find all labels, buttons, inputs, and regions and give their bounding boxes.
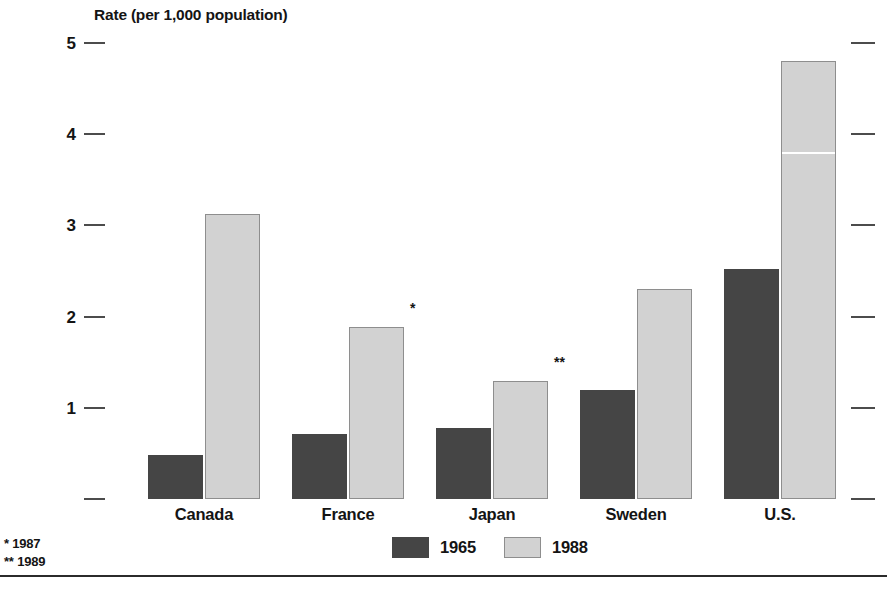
chart-legend: 19651988 (392, 537, 588, 558)
bar-chart-figure: Rate (per 1,000 population) 54321 *** Ca… (0, 0, 887, 590)
y-tick-label: 2 (54, 308, 76, 325)
bar-1988-france (349, 327, 404, 499)
y-tick-mark-left (84, 316, 105, 318)
bar-1965-japan (436, 428, 491, 499)
y-tick-label: 1 (54, 399, 76, 416)
category-label-france: France (322, 505, 375, 524)
legend-label-1965: 1965 (440, 539, 476, 556)
bar-annotation-france: * (410, 301, 415, 315)
chart-footnotes: * 1987** 1989 (4, 535, 45, 572)
bar-groups: *** (108, 43, 845, 499)
bar-group-us (724, 43, 836, 499)
y-tick-mark-left (84, 133, 105, 135)
y-tick-mark-right (851, 407, 875, 409)
bar-annotation-japan: ** (554, 355, 565, 369)
legend-item-1965: 1965 (392, 537, 476, 558)
x-axis-category-labels: CanadaFranceJapanSwedenU.S. (108, 503, 845, 531)
footnote-2: ** 1989 (4, 553, 45, 571)
bar-1988-japan (493, 381, 548, 499)
y-tick-mark-right (851, 42, 875, 44)
y-tick-mark-right (851, 133, 875, 135)
legend-swatch-1965 (392, 537, 429, 558)
bar-group-france: * (292, 43, 404, 499)
category-label-canada: Canada (175, 505, 233, 524)
y-tick-mark-left (84, 498, 105, 500)
y-tick-mark-left (84, 407, 105, 409)
y-axis-title: Rate (per 1,000 population) (94, 6, 288, 24)
bar-1965-sweden (580, 390, 635, 499)
y-tick-mark-right (851, 498, 875, 500)
bar-group-sweden (580, 43, 692, 499)
y-tick-mark-left (84, 42, 105, 44)
category-label-sweden: Sweden (605, 505, 666, 524)
y-tick-mark-right (851, 316, 875, 318)
legend-label-1988: 1988 (552, 539, 588, 556)
y-tick-label: 3 (54, 217, 76, 234)
bar-seam-line (782, 152, 835, 154)
bar-1988-us (781, 61, 836, 499)
footnote-1: * 1987 (4, 535, 45, 553)
legend-item-1988: 1988 (504, 537, 588, 558)
bar-1965-france (292, 434, 347, 499)
bar-1988-sweden (637, 289, 692, 499)
y-tick-label: 4 (54, 126, 76, 143)
y-tick-mark-left (84, 224, 105, 226)
category-label-japan: Japan (469, 505, 516, 524)
legend-swatch-1988 (504, 537, 541, 558)
bar-1965-us (724, 269, 779, 499)
category-label-us: U.S. (764, 505, 795, 524)
y-tick-mark-right (851, 224, 875, 226)
bottom-divider-rule (0, 575, 887, 577)
bar-group-canada (148, 43, 260, 499)
bar-1988-canada (205, 214, 260, 499)
y-tick-label: 5 (54, 35, 76, 52)
bar-group-japan: ** (436, 43, 548, 499)
bar-1965-canada (148, 455, 203, 499)
